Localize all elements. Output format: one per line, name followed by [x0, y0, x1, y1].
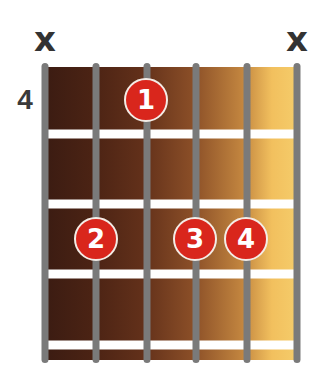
string-2	[244, 63, 251, 363]
fret-line	[47, 200, 297, 209]
finger-dot-2: 2	[74, 217, 118, 261]
string-3	[193, 63, 200, 363]
fret-line	[47, 341, 297, 350]
finger-dot-4: 4	[224, 217, 268, 261]
string-1	[294, 63, 301, 363]
string-5	[93, 63, 100, 363]
mute-marker-string-1: x	[286, 22, 308, 56]
string-6	[42, 63, 49, 363]
finger-dot-1: 1	[124, 78, 168, 122]
fret-line	[47, 130, 297, 139]
mute-marker-string-6: x	[34, 22, 56, 56]
start-fret-label: 4	[17, 84, 33, 116]
fret-line	[47, 270, 297, 279]
finger-dot-3: 3	[173, 217, 217, 261]
fretboard	[47, 67, 297, 360]
